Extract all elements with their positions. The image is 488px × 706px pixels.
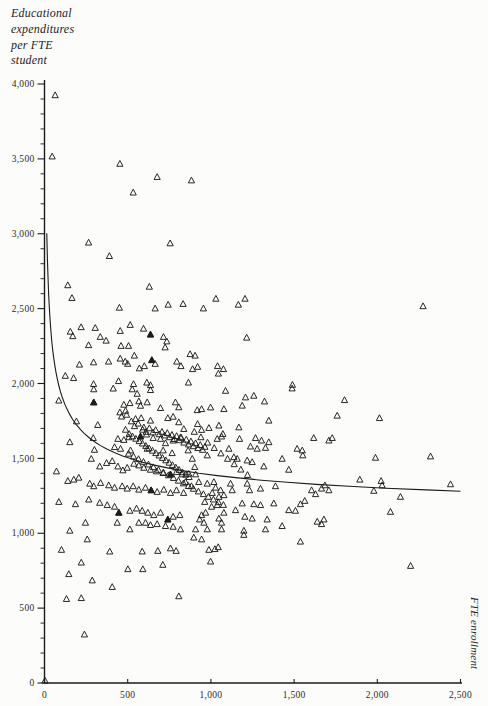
data-point-triangle: [107, 548, 113, 554]
data-point-triangle: [124, 464, 130, 470]
scatter-plot-figure: 4,0003,5003,0002,5002,0001,5001,00050000…: [0, 0, 488, 706]
data-point-triangle: [329, 435, 335, 441]
data-point-triangle: [127, 507, 133, 513]
data-point-triangle: [207, 558, 213, 564]
data-point-triangle: [198, 536, 204, 542]
data-point-triangle: [242, 394, 248, 400]
data-point-triangle: [125, 343, 131, 349]
data-point-triangle: [376, 415, 382, 421]
data-point-triangle: [211, 479, 217, 485]
data-point-triangle: [139, 507, 145, 513]
data-point-triangle: [294, 445, 300, 451]
data-point-triangle: [251, 392, 257, 398]
data-point-triangle: [117, 355, 123, 361]
data-point-triangle: [244, 480, 250, 486]
data-point-triangle: [214, 363, 220, 369]
data-point-triangle: [154, 521, 160, 527]
data-point-triangle: [49, 153, 55, 159]
data-point-triangle: [142, 484, 148, 490]
y-tick-label: 2,500: [12, 304, 35, 314]
data-point-triangle: [117, 328, 123, 334]
y-tick-label: 2,000: [12, 379, 35, 389]
data-point-triangle: [118, 343, 124, 349]
data-point-triangle-bold: [137, 433, 143, 439]
data-point-triangle: [261, 463, 267, 469]
data-point-triangle: [85, 239, 91, 245]
data-point-triangle: [191, 429, 197, 435]
data-point-triangle: [89, 577, 95, 583]
y-axis-title: Educational expenditures per FTE student: [11, 6, 74, 69]
data-point-triangle: [221, 406, 227, 412]
data-point-triangle: [65, 478, 71, 484]
data-point-triangle: [104, 502, 110, 508]
data-point-triangle: [138, 415, 144, 421]
data-point-triangle: [226, 445, 232, 451]
data-point-triangle: [76, 474, 82, 480]
x-axis-title: FTE enrollment: [469, 597, 481, 669]
data-point-triangle: [200, 305, 206, 311]
data-point-triangle: [170, 523, 176, 529]
data-point-triangle: [244, 457, 250, 463]
data-point-triangle: [142, 519, 148, 525]
y-tick-label: 0: [29, 678, 34, 688]
data-point-triangle: [264, 516, 270, 522]
data-point-triangle: [127, 526, 133, 532]
data-point-triangle: [208, 503, 214, 509]
data-point-triangle: [314, 518, 320, 524]
data-point-triangle: [204, 480, 210, 486]
data-point-triangle: [254, 445, 260, 451]
data-point-triangle: [160, 334, 166, 340]
data-point-triangle: [308, 487, 314, 493]
data-point-triangle: [378, 478, 384, 484]
data-point-triangle: [114, 519, 120, 525]
data-point-triangle: [387, 508, 393, 514]
data-point-triangle: [117, 160, 123, 166]
data-point-triangle: [312, 491, 318, 497]
data-point-triangle: [215, 544, 221, 550]
y-axis-title-line-1: Educational: [11, 6, 74, 22]
data-point-triangle: [136, 486, 142, 492]
data-point-triangle: [81, 631, 87, 637]
data-point-triangle: [91, 446, 97, 452]
data-point-triangle: [174, 358, 180, 364]
data-point-triangle: [192, 526, 198, 532]
y-axis-title-line-4: student: [11, 53, 74, 69]
data-point-triangle: [206, 547, 212, 553]
data-point-triangle: [154, 174, 160, 180]
data-point-triangle: [116, 304, 122, 310]
data-point-triangle: [161, 486, 167, 492]
y-tick-label: 1,500: [12, 454, 35, 464]
data-point-triangle: [85, 342, 91, 348]
data-point-triangle: [76, 361, 82, 367]
data-point-triangle: [67, 439, 73, 445]
data-point-triangle: [249, 515, 255, 521]
y-tick-label: 3,500: [12, 154, 35, 164]
data-point-triangle: [341, 397, 347, 403]
data-point-triangle: [297, 538, 303, 544]
data-point-triangle: [139, 548, 145, 554]
data-point-triangle: [302, 498, 308, 504]
data-point-triangle: [238, 466, 244, 472]
data-point-triangle: [110, 385, 116, 391]
y-axis-title-line-2: expenditures: [11, 22, 74, 38]
data-point-triangle: [177, 526, 183, 532]
x-tick-label: 500: [120, 690, 135, 700]
data-point-triangle-bold: [149, 357, 155, 363]
data-point-triangle: [151, 512, 157, 518]
data-point-triangle: [246, 487, 252, 493]
data-point-triangle: [125, 566, 131, 572]
data-point-triangle: [144, 399, 150, 405]
data-point-triangle: [154, 489, 160, 495]
data-point-triangle: [170, 413, 176, 419]
data-point-triangle: [65, 282, 71, 288]
data-point-triangle: [52, 92, 58, 98]
data-point-triangle: [111, 484, 117, 490]
data-point-triangle: [258, 437, 264, 443]
data-point-triangle: [187, 351, 193, 357]
data-point-triangle: [204, 526, 210, 532]
data-point-triangle: [165, 301, 171, 307]
data-point-triangle: [86, 496, 92, 502]
data-point-triangle: [167, 490, 173, 496]
data-point-triangle: [90, 435, 96, 441]
data-point-triangle: [239, 500, 245, 506]
